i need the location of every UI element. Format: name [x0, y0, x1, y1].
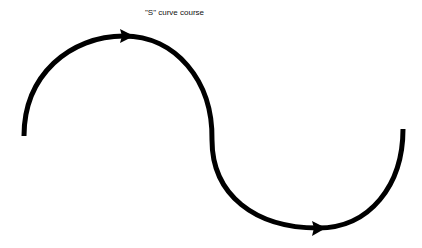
- s-curve-path: [24, 36, 403, 228]
- upper-arrow-icon: [120, 29, 134, 43]
- lower-arrow-icon: [312, 221, 326, 236]
- s-curve-diagram: [0, 0, 422, 248]
